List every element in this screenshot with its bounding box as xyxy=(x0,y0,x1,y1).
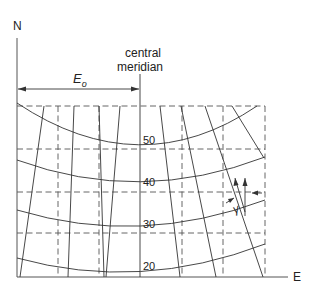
false-easting-label: Eo xyxy=(73,72,87,89)
grid-dashed xyxy=(17,106,265,277)
meridians xyxy=(20,106,264,277)
north-axis-label: N xyxy=(13,20,22,32)
parallel-label-50: 50 xyxy=(143,135,155,146)
east-axis-label: E xyxy=(293,271,301,283)
parallels xyxy=(17,103,265,272)
parallel-label-20: 20 xyxy=(143,261,155,272)
central-meridian-label-line1: central xyxy=(125,47,161,59)
parallel-label-40: 40 xyxy=(143,177,155,188)
parallel-label-30: 30 xyxy=(143,219,155,230)
false-easting-subscript: o xyxy=(82,79,87,89)
false-easting-symbol: E xyxy=(73,71,82,86)
central-meridian-label-line2: meridian xyxy=(117,61,163,73)
projection-diagram xyxy=(0,0,311,294)
